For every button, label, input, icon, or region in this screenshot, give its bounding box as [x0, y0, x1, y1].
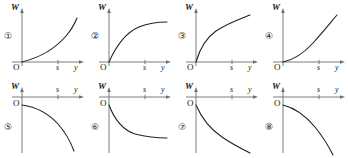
- axis-label-W: W: [98, 82, 106, 91]
- vertical-axis-arrow: [194, 87, 198, 92]
- curve: [196, 105, 250, 153]
- axis-label-W: W: [11, 82, 19, 91]
- axis-label-y: y: [161, 64, 165, 72]
- graph-panel-4: WOsy④: [261, 0, 348, 79]
- horizontal-axis-arrow: [340, 60, 345, 64]
- horizontal-axis-arrow: [340, 95, 345, 99]
- graph-panel-6: WOsy⑥: [87, 79, 174, 158]
- tick-label-s: s: [230, 86, 233, 94]
- horizontal-axis-arrow: [253, 95, 258, 99]
- curve: [283, 105, 333, 155]
- panel-number: ⑥: [91, 123, 99, 132]
- panel-number: ③: [178, 32, 186, 41]
- horizontal-axis-arrow: [253, 60, 258, 64]
- tick-label-s: s: [317, 64, 320, 72]
- origin-label: O: [13, 99, 20, 108]
- axis-label-y: y: [74, 64, 78, 72]
- graph-panel-3: WOsy③: [174, 0, 261, 79]
- curve: [109, 22, 167, 62]
- origin-label: O: [100, 99, 107, 108]
- axis-label-y: y: [161, 86, 165, 94]
- panel-number: ②: [91, 32, 99, 41]
- origin-label: O: [187, 63, 194, 72]
- tick-label-s: s: [230, 64, 233, 72]
- tick-label-s: s: [143, 64, 146, 72]
- curve: [22, 105, 74, 151]
- horizontal-axis-arrow: [166, 95, 171, 99]
- vertical-axis-arrow: [107, 8, 111, 13]
- axis-label-y: y: [248, 64, 252, 72]
- tick-label-s: s: [56, 86, 59, 94]
- vertical-axis-arrow: [281, 8, 285, 13]
- panel-number: ⑦: [178, 123, 186, 132]
- vertical-axis-arrow: [20, 87, 24, 92]
- axis-label-W: W: [11, 3, 19, 12]
- horizontal-axis-arrow: [166, 60, 171, 64]
- axis-label-W: W: [185, 82, 193, 91]
- axis-label-W: W: [272, 3, 280, 12]
- vertical-axis-arrow: [107, 87, 111, 92]
- vertical-axis-arrow: [20, 8, 24, 13]
- axis-label-y: y: [335, 64, 339, 72]
- panel-number: ⑤: [4, 123, 12, 132]
- curve: [283, 15, 337, 62]
- axis-label-W: W: [272, 82, 280, 91]
- curve: [196, 15, 250, 62]
- axis-label-y: y: [248, 86, 252, 94]
- graph-panel-1: WOsy①: [0, 0, 87, 79]
- graph-panel-8: WOsy⑧: [261, 79, 348, 158]
- vertical-axis-arrow: [194, 8, 198, 13]
- origin-label: O: [100, 63, 107, 72]
- axis-label-y: y: [335, 86, 339, 94]
- vertical-axis-arrow: [281, 87, 285, 92]
- panel-number: ⑧: [265, 123, 273, 132]
- tick-label-s: s: [143, 86, 146, 94]
- panel-number: ④: [265, 32, 273, 41]
- graph-panel-7: WOsy⑦: [174, 79, 261, 158]
- origin-label: O: [187, 99, 194, 108]
- curve: [22, 18, 77, 62]
- panel-number: ①: [4, 32, 12, 41]
- curve: [109, 105, 167, 138]
- graph-panel-2: WOsy②: [87, 0, 174, 79]
- origin-label: O: [13, 63, 20, 72]
- horizontal-axis-arrow: [79, 95, 84, 99]
- origin-label: O: [274, 99, 281, 108]
- physics-graph-figure: WOsy①WOsy②WOsy③WOsy④WOsy⑤WOsy⑥WOsy⑦WOsy⑧: [0, 0, 348, 158]
- tick-label-s: s: [56, 64, 59, 72]
- graph-panel-5: WOsy⑤: [0, 79, 87, 158]
- origin-label: O: [274, 63, 281, 72]
- axis-label-W: W: [185, 3, 193, 12]
- horizontal-axis-arrow: [79, 60, 84, 64]
- axis-label-W: W: [98, 3, 106, 12]
- tick-label-s: s: [317, 86, 320, 94]
- axis-label-y: y: [74, 86, 78, 94]
